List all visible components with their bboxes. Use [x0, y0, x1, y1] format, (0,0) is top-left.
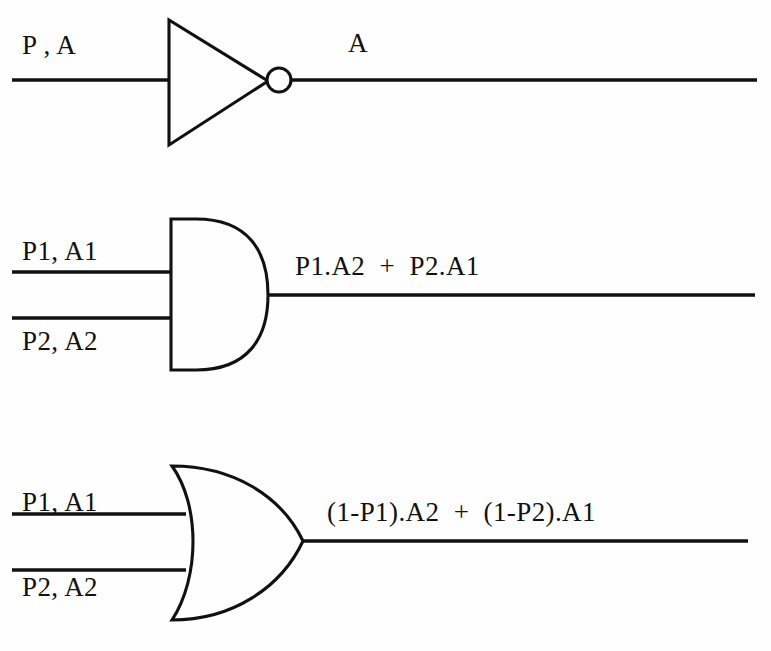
- not-gate-input-label: P , A: [22, 32, 76, 59]
- or-gate-input-label-2: P2, A2: [22, 574, 98, 601]
- not-gate-bubble-icon: [267, 68, 291, 92]
- gate-canvas: [0, 0, 771, 651]
- logic-gate-diagram: P , A A P1, A1 P2, A2 P1.A2 + P2.A1 P1, …: [0, 0, 771, 651]
- and-gate-group: [12, 219, 755, 370]
- not-gate-group: [12, 20, 757, 145]
- not-gate-output-label: A: [348, 30, 368, 57]
- or-gate-output-label: (1-P1).A2 + (1-P2).A1: [327, 499, 596, 526]
- and-gate-input-label-1: P1, A1: [22, 238, 98, 265]
- or-gate-input-label-1: P1, A1: [22, 489, 98, 516]
- or-gate-icon: [172, 466, 303, 620]
- and-gate-output-label: P1.A2 + P2.A1: [295, 253, 480, 280]
- and-gate-input-label-2: P2, A2: [22, 328, 98, 355]
- not-gate-icon: [169, 20, 268, 145]
- and-gate-icon: [171, 219, 268, 370]
- or-gate-group: [12, 466, 748, 620]
